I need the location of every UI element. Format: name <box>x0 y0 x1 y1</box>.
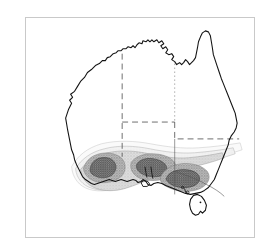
map-background <box>26 18 254 237</box>
island-marker-c <box>200 201 202 203</box>
figure-root: Australia species distribution density m… <box>0 0 270 251</box>
australia-map <box>26 18 254 237</box>
map-frame <box>25 17 255 238</box>
